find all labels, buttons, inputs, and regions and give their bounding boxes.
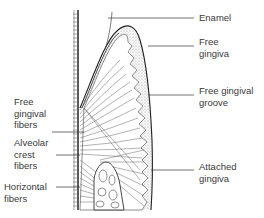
label-free-gingiva: Free gingiva	[199, 36, 229, 59]
gingiva-diagram: Enamel Free gingiva Free gingival groove…	[0, 0, 264, 218]
label-attached-gingiva: Attached gingiva	[199, 161, 237, 184]
label-alveolar-crest-fibers: Alveolar crest fibers	[14, 137, 48, 172]
label-horizontal-fibers: Horizontal fibers	[4, 181, 47, 204]
label-free-gingival-fibers: Free gingival fibers	[14, 96, 46, 131]
label-enamel: Enamel	[199, 12, 231, 24]
label-free-gingival-groove: Free gingival groove	[199, 85, 253, 108]
tooth-root-surface	[73, 10, 78, 210]
